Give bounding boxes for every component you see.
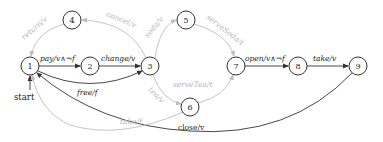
edge-label: tea/v: [147, 85, 167, 105]
svg-text:7: 7: [233, 62, 238, 71]
edge-3-4: cancel/v: [82, 10, 146, 58]
edge-3-5: soda/v: [143, 14, 176, 58]
edge-label: take/f: [120, 117, 143, 126]
edge-label: open/v∧¬f: [245, 54, 286, 63]
edge-label: pay/v∧¬f: [40, 54, 76, 63]
state-node-8: 8: [289, 57, 307, 75]
svg-text:4: 4: [69, 16, 74, 25]
state-node-6: 6: [181, 98, 199, 116]
edge-label: soda/v: [143, 14, 166, 39]
edge-label: free/f: [76, 88, 99, 97]
svg-text:6: 6: [187, 103, 192, 112]
state-node-5: 5: [177, 11, 195, 29]
state-node-2: 2: [81, 57, 99, 75]
edge-8-9: take/v: [307, 54, 348, 66]
edge-label: cancel/v: [105, 10, 138, 30]
state-node-7: 7: [227, 57, 245, 75]
edge-5-7: serveSoda/t: [194, 12, 247, 56]
edge-1-2: pay/v∧¬f: [39, 54, 80, 66]
state-node-3: 3: [141, 57, 159, 75]
state-node-1: 1: [21, 57, 39, 75]
start-indicator: start: [14, 76, 35, 102]
svg-text:2: 2: [87, 62, 92, 71]
edge-7-8: open/v∧¬f: [245, 54, 288, 66]
svg-text:3: 3: [147, 62, 152, 71]
svg-text:8: 8: [295, 62, 300, 71]
edge-label: return/v: [20, 14, 50, 41]
svg-text:5: 5: [183, 16, 188, 25]
svg-text:1: 1: [27, 62, 32, 71]
edge-label: close/v: [178, 123, 205, 132]
edge-label: serveTea/t: [173, 80, 213, 89]
start-label: start: [14, 92, 35, 102]
svg-text:9: 9: [355, 62, 360, 71]
state-node-4: 4: [63, 11, 81, 29]
edge-6-7: serveTea/t: [173, 75, 233, 103]
edge-2-3: change/v: [99, 54, 140, 66]
edge-label: change/v: [101, 54, 136, 63]
edge-4-1: return/v: [20, 14, 64, 56]
state-diagram: start pay/v∧¬f change/v cancel/v return/…: [0, 0, 383, 142]
state-node-9: 9: [349, 57, 367, 75]
edge-label: take/v: [313, 54, 337, 63]
